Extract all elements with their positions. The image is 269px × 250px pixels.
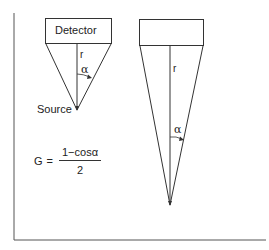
diagram-canvas: [0, 0, 269, 250]
geometry-factor-formula: G = 1−cosα 2: [34, 146, 101, 176]
formula-fraction: 1−cosα 2: [59, 146, 101, 176]
formula-equals: =: [47, 155, 53, 167]
left-angle-label: α: [81, 64, 88, 75]
right-apex-arrowhead: [168, 201, 172, 206]
right-detector-box: [140, 20, 204, 46]
right-cone-edge-left: [140, 46, 170, 205]
left-detector-label: Detector: [55, 25, 97, 36]
formula-numerator: 1−cosα: [59, 146, 101, 161]
formula-denominator: 2: [77, 161, 83, 176]
left-cone-edge-left: [46, 44, 77, 110]
formula-lhs: G: [34, 155, 43, 167]
left-source-arrowhead: [75, 106, 79, 111]
left-radius-label: r: [80, 50, 83, 60]
right-angle-label: α: [174, 124, 181, 135]
right-radius-label: r: [173, 64, 176, 74]
source-label: Source: [37, 104, 72, 115]
